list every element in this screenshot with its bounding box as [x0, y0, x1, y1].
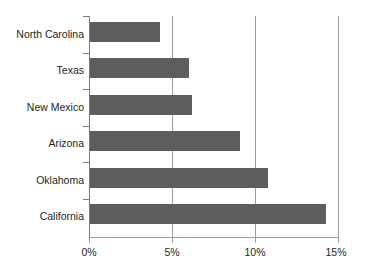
x-axis-tick-label-15: 15% — [306, 246, 366, 258]
plot-area — [89, 16, 338, 237]
bar-arizona — [89, 131, 240, 151]
bar-oklahoma — [89, 168, 268, 188]
y-axis-tick — [83, 199, 89, 200]
category-label-new-mexico: New Mexico — [0, 101, 84, 113]
x-axis-tick-label-0: 0% — [59, 246, 119, 258]
x-axis-tick-label-10: 10% — [225, 246, 285, 258]
category-label-north-carolina: North Carolina — [0, 28, 84, 40]
category-label-texas: Texas — [0, 64, 84, 76]
bar-new-mexico — [89, 95, 192, 115]
bar-california — [89, 204, 326, 224]
x-axis-line — [89, 237, 339, 238]
x-axis-tick — [89, 237, 90, 243]
y-axis-tick — [83, 53, 89, 54]
x-axis-tick — [255, 237, 256, 243]
y-axis-tick — [83, 16, 89, 17]
y-axis-line — [89, 16, 90, 238]
bar-north-carolina — [89, 22, 160, 42]
y-axis-tick — [83, 162, 89, 163]
category-label-oklahoma: Oklahoma — [0, 174, 84, 186]
category-label-arizona: Arizona — [0, 137, 84, 149]
x-axis-tick — [172, 237, 173, 243]
bar-chart: North Carolina Texas New Mexico Arizona … — [0, 0, 366, 267]
gridline-15pct — [338, 16, 339, 237]
bar-texas — [89, 58, 189, 78]
y-axis-tick — [83, 89, 89, 90]
y-axis-tick — [83, 126, 89, 127]
category-label-california: California — [0, 210, 84, 222]
x-axis-tick — [338, 237, 339, 243]
x-axis-tick-label-5: 5% — [142, 246, 202, 258]
